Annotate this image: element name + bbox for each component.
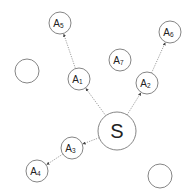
node-circle (148, 164, 172, 188)
node-circle (15, 59, 39, 83)
edge-s-to-a2 (127, 93, 141, 115)
node-a1: A1 (68, 68, 90, 90)
node-a4: A4 (26, 160, 48, 182)
edge-s-to-a3 (83, 138, 99, 144)
node-a5: A5 (49, 12, 71, 34)
empty-node-empty-left (15, 59, 39, 83)
node-a2: A2 (136, 72, 158, 94)
nodes-layer: SA1A2A3A4A5A6A7 (15, 12, 181, 188)
edge-a3-to-a4 (47, 154, 63, 165)
node-s: S (98, 112, 136, 150)
agent-graph-diagram: SA1A2A3A4A5A6A7 (0, 0, 190, 196)
edge-s-to-a1 (86, 88, 106, 115)
empty-node-empty-bottom-right (148, 164, 172, 188)
node-a7: A7 (109, 49, 131, 71)
node-label: S (110, 120, 123, 142)
edge-a2-to-a6 (152, 42, 166, 72)
node-a3: A3 (61, 137, 83, 159)
node-a6: A6 (159, 21, 181, 43)
edge-a1-to-a5 (64, 34, 76, 69)
